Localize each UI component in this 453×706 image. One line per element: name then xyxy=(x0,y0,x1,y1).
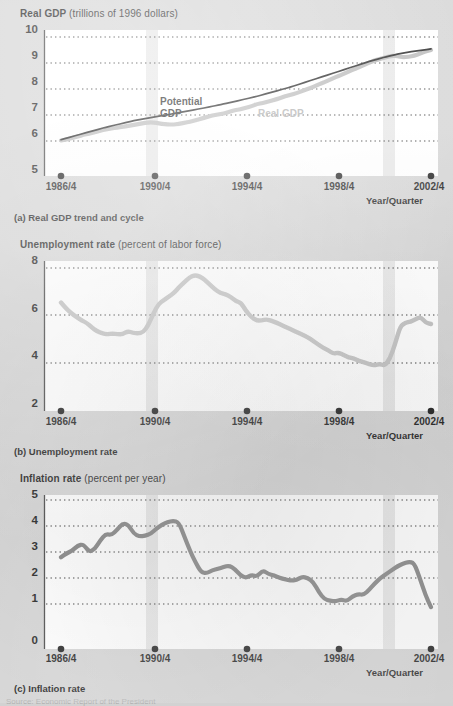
panel-b-plot xyxy=(0,253,453,431)
panel-b-xtick-1998: 1998/4 xyxy=(324,416,355,427)
panel-c-caption: (c) Inflation rate xyxy=(14,683,85,694)
panel-a-axis-title-bold: Real GDP xyxy=(20,8,66,19)
panel-c-ytick-0: 0 xyxy=(12,635,38,647)
panel-a-ytick-9: 9 xyxy=(12,50,38,62)
panel-a-xtick-1994: 1994/4 xyxy=(232,181,263,192)
panel-c-xtick-1994: 1994/4 xyxy=(232,653,263,664)
panel-b-axis-title-bold: Unemployment rate xyxy=(20,239,115,250)
panel-c-xtick-1998: 1998/4 xyxy=(324,653,355,664)
panel-b-xaxis-name: Year/Quarter xyxy=(366,430,423,441)
panel-a-xtick-1990: 1990/4 xyxy=(140,181,171,192)
panel-a-plot xyxy=(0,22,453,200)
panel-c-axis-title-bold: Inflation rate xyxy=(20,473,81,484)
panel-inflation: Inflation rate (percent per year) xyxy=(0,465,453,703)
panel-c-xaxis-name: Year/Quarter xyxy=(366,667,423,678)
panel-a-svg xyxy=(0,22,453,200)
panel-b-xtick-1990: 1990/4 xyxy=(140,416,171,427)
panel-b-svg xyxy=(0,253,453,431)
panel-a-ytick-7: 7 xyxy=(12,102,38,114)
panel-b-ytick-2: 2 xyxy=(12,398,38,410)
panel-b-plot-background xyxy=(44,261,438,411)
panel-a-ytick-5: 5 xyxy=(12,164,38,176)
panel-a-xtick-1998: 1998/4 xyxy=(324,181,355,192)
panel-a-axis-title: Real GDP (trillions of 1996 dollars) xyxy=(20,8,178,19)
panel-a-caption: (a) Real GDP trend and cycle xyxy=(14,212,144,223)
panel-c-xtick-1990: 1990/4 xyxy=(140,653,171,664)
panel-a-axis-title-unit: (trillions of 1996 dollars) xyxy=(69,8,178,19)
panel-real-gdp: Real GDP (trillions of 1996 dollars) xyxy=(0,0,453,232)
panel-c-plot xyxy=(0,487,453,669)
panel-b-ytick-4: 4 xyxy=(12,350,38,362)
panel-b-axis-title: Unemployment rate (percent of labor forc… xyxy=(20,239,222,250)
potential-gdp-label: Potential GDP xyxy=(160,96,202,120)
panel-a-xtick-2002: 2002/4 xyxy=(414,181,445,192)
panel-c-xtick-1986: 1986/4 xyxy=(46,653,77,664)
panel-c-svg xyxy=(0,487,453,669)
panel-c-ytick-2: 2 xyxy=(12,567,38,579)
panel-c-xtick-2002: 2002/4 xyxy=(414,653,445,664)
panel-c-ytick-4: 4 xyxy=(12,515,38,527)
panel-a-ytick-8: 8 xyxy=(12,76,38,88)
panel-c-plot-background xyxy=(44,495,438,649)
panel-c-axis-title-unit: (percent per year) xyxy=(84,473,165,484)
panel-b-xtick-1986: 1986/4 xyxy=(46,416,77,427)
panel-b-axis-title-unit: (percent of labor force) xyxy=(118,239,222,250)
real-gdp-label: Real GDP xyxy=(258,108,304,119)
panel-a-xaxis-name: Year/Quarter xyxy=(366,195,423,206)
panel-a-ytick-10: 10 xyxy=(12,24,38,36)
panel-b-caption: (b) Unemployment rate xyxy=(14,446,117,457)
panel-c-ytick-1: 1 xyxy=(12,593,38,605)
panel-b-xtick-2002: 2002/4 xyxy=(414,416,445,427)
panel-b-xtick-1994: 1994/4 xyxy=(232,416,263,427)
source-note: Source: Economic Report of the President xyxy=(6,697,155,706)
panel-a-xtick-1986: 1986/4 xyxy=(46,181,77,192)
panel-b-ytick-6: 6 xyxy=(12,303,38,315)
panel-c-ytick-3: 3 xyxy=(12,541,38,553)
panel-a-ytick-6: 6 xyxy=(12,128,38,140)
panel-a-plot-background xyxy=(44,30,438,176)
panel-c-ytick-5: 5 xyxy=(12,489,38,501)
panel-c-axis-title: Inflation rate (percent per year) xyxy=(20,473,166,484)
panel-b-ytick-8: 8 xyxy=(12,255,38,267)
panel-unemployment: Unemployment rate (percent of labor forc… xyxy=(0,232,453,465)
